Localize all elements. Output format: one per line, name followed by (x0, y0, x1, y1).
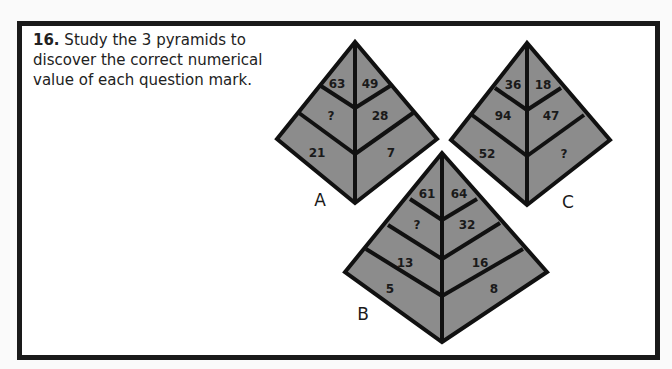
pyramid-b-cell-r4-right: 8 (490, 282, 498, 296)
pyramid-a-cell-mid-right: 28 (372, 109, 389, 123)
pyramid-a-cell-mid-left: ? (328, 109, 335, 123)
pyramid-b-label: B (357, 304, 369, 324)
pyramid-a-label: A (314, 190, 326, 210)
pyramid-b-cell-r2-left: ? (414, 218, 421, 232)
pyramid-b-cell-r3-right: 16 (472, 256, 489, 270)
pyramids-figure: 63 49 ? 28 21 7 A 36 18 94 47 52 ? C 61 … (0, 0, 672, 369)
pyramid-c: 36 18 94 47 52 ? C (451, 43, 610, 212)
pyramid-a-cell-bot-right: 7 (387, 146, 395, 160)
pyramid-a-cell-bot-left: 21 (309, 146, 326, 160)
pyramid-b-cell-r4-left: 5 (386, 282, 394, 296)
pyramid-b-cell-r1-left: 61 (419, 187, 436, 201)
pyramid-b-cell-r1-right: 64 (451, 187, 468, 201)
pyramid-c-cell-mid-left: 94 (495, 109, 512, 123)
pyramid-c-label: C (562, 192, 574, 212)
pyramid-c-cell-top-right: 18 (535, 78, 552, 92)
pyramid-a-cell-top-right: 49 (362, 77, 379, 91)
pyramid-a: 63 49 ? 28 21 7 A (277, 42, 437, 210)
pyramid-b-cell-r3-left: 13 (397, 256, 414, 270)
pyramid-c-cell-bot-left: 52 (479, 147, 496, 161)
pyramid-c-cell-mid-right: 47 (543, 109, 560, 123)
pyramid-b-cell-r2-right: 32 (459, 218, 476, 232)
pyramid-c-cell-top-left: 36 (505, 78, 522, 92)
pyramid-a-cell-top-left: 63 (329, 77, 346, 91)
pyramid-c-cell-bot-right: ? (561, 147, 568, 161)
